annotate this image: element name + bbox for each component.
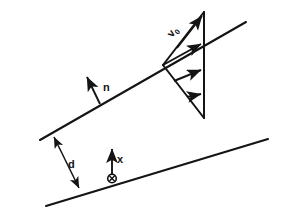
- velocity-arrow-lower: [187, 94, 201, 97]
- inclined-channel-diagram: v 0 n d x: [0, 0, 286, 221]
- normal-vector-label: n: [103, 81, 110, 93]
- gap-dimension-arrow: [54, 137, 79, 188]
- origin-icon: [108, 174, 117, 183]
- figure-root: v 0 n d x: [0, 0, 286, 221]
- velocity-arrow-upper: [163, 44, 201, 65]
- profile-lower-edge: [163, 65, 204, 118]
- velocity-label-group: v 0: [164, 24, 182, 41]
- normal-vector-arrow: [87, 77, 100, 104]
- lower-wall: [46, 139, 268, 206]
- upper-wall: [40, 22, 246, 140]
- axis-x-label: x: [117, 153, 124, 165]
- gap-distance-label: d: [68, 158, 75, 170]
- velocity-arrow-middle: [174, 70, 201, 81]
